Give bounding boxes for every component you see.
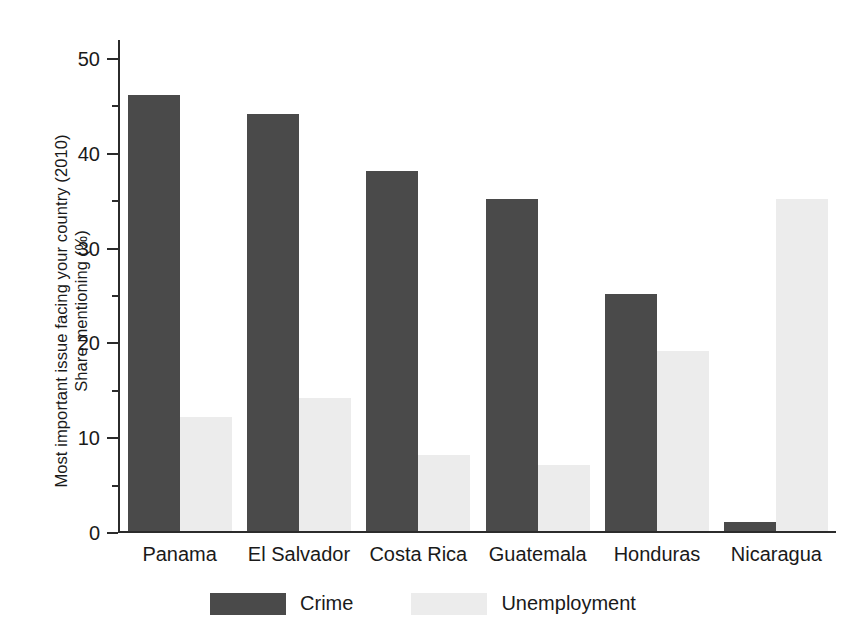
y-tick-mark — [107, 153, 118, 155]
x-tick-label-costa-rica: Costa Rica — [369, 543, 467, 566]
y-tick-mark — [107, 248, 118, 250]
legend-label-crime: Crime — [300, 592, 353, 615]
y-tick-label: 30 — [78, 237, 100, 260]
bar-unemployment-costa-rica — [418, 455, 470, 531]
legend-swatch-crime — [210, 593, 286, 615]
bar-unemployment-guatemala — [538, 465, 590, 531]
y-tick-label: 0 — [89, 522, 100, 545]
y-tick-mark — [107, 342, 118, 344]
bar-group — [239, 40, 358, 531]
bar-unemployment-el-salvador — [299, 398, 351, 531]
y-minor-tick-mark — [112, 390, 118, 392]
x-tick-label-honduras: Honduras — [614, 543, 701, 566]
bars-layer — [120, 40, 836, 531]
x-tick-label-nicaragua: Nicaragua — [731, 543, 822, 566]
bar-unemployment-honduras — [657, 351, 709, 531]
bar-group — [717, 40, 836, 531]
legend-item-crime: Crime — [210, 592, 353, 615]
bar-unemployment-panama — [180, 417, 232, 531]
y-minor-tick-mark — [112, 105, 118, 107]
y-tick-label: 50 — [78, 47, 100, 70]
legend-label-unemployment: Unemployment — [501, 592, 636, 615]
bar-group — [120, 40, 239, 531]
bar-crime-guatemala — [486, 199, 538, 531]
y-axis-title-line-1: Most important issue facing your country… — [51, 134, 71, 487]
x-axis-line — [118, 531, 836, 533]
plot-area: 01020304050 — [118, 40, 836, 533]
bar-chart: Most important issue facing your country… — [0, 0, 846, 641]
bar-crime-costa-rica — [366, 171, 418, 531]
y-tick-mark — [107, 437, 118, 439]
y-tick-label: 10 — [78, 427, 100, 450]
y-minor-tick-mark — [112, 200, 118, 202]
legend-item-unemployment: Unemployment — [411, 592, 636, 615]
y-tick-label: 20 — [78, 332, 100, 355]
bar-crime-nicaragua — [724, 522, 776, 531]
bar-crime-panama — [128, 95, 180, 531]
x-tick-label-el-salvador: El Salvador — [248, 543, 350, 566]
x-tick-label-panama: Panama — [142, 543, 217, 566]
bar-group — [478, 40, 597, 531]
y-tick-mark — [107, 532, 118, 534]
x-tick-label-guatemala: Guatemala — [489, 543, 587, 566]
y-minor-tick-mark — [112, 485, 118, 487]
y-axis-title: Most important issue facing your country… — [43, 51, 99, 571]
bar-group — [597, 40, 716, 531]
bar-crime-honduras — [605, 294, 657, 531]
y-tick-mark — [107, 58, 118, 60]
y-minor-tick-mark — [112, 295, 118, 297]
y-tick-label: 40 — [78, 142, 100, 165]
chart-legend: CrimeUnemployment — [0, 592, 846, 615]
legend-swatch-unemployment — [411, 593, 487, 615]
bar-group — [359, 40, 478, 531]
bar-crime-el-salvador — [247, 114, 299, 531]
bar-unemployment-nicaragua — [776, 199, 828, 531]
